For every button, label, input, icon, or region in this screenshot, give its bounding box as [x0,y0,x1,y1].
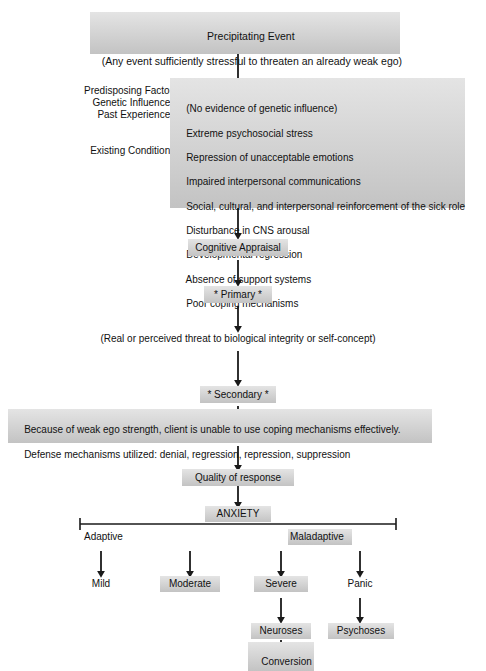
factor-item-0: (No evidence of genetic influence) [186,103,337,114]
ego-strength-line1: Because of weak ego strength, client is … [24,424,401,435]
factor-item-3: Impaired interpersonal communications [186,176,361,187]
node-anxiety: ANXIETY [205,506,271,522]
factor-item-5: Disturbance in CNS arousal [186,225,309,236]
ego-strength-line2: Defense mechanisms utilized: denial, reg… [24,449,350,460]
precipitating-event-detail: (Any event sufficiently stressful to thr… [102,55,402,67]
factor-item-4: Social, cultural, and interpersonal rein… [186,201,465,212]
node-ego-strength: Because of weak ego strength, client is … [8,409,432,443]
label-existing-conditions: Existing Conditions: [20,145,178,157]
factor-item-2: Repression of unacceptable emotions [186,152,353,163]
conversion-disorder-line1: Conversion [261,656,312,667]
node-neuroses: Neuroses [251,623,311,639]
label-maladaptive: Maladaptive [288,529,352,545]
factor-item-7: Absence of support systems [186,274,312,285]
node-primary-appraisal: * Primary * [204,286,272,303]
label-past-experiences: Past Experiences: [20,109,178,121]
precipitating-event-title: Precipitating Event [207,30,295,42]
node-panic: Panic [335,578,385,590]
label-adaptive: Adaptive [84,531,123,543]
flowchart-canvas: Precipitating Event (Any event sufficien… [0,0,486,671]
label-predisposing-factors: Predisposing Factors [20,85,178,97]
node-conversion-disorder: Conversion Disorder [248,642,314,671]
node-mild: Mild [76,578,126,590]
label-genetic-influences: Genetic Influences: [20,97,178,109]
node-secondary-appraisal: * Secondary * [200,386,276,403]
factor-item-1: Extreme psychosocial stress [186,128,313,139]
node-severe: Severe [254,576,308,592]
node-precipitating-event: Precipitating Event (Any event sufficien… [90,12,400,54]
node-cognitive-appraisal: Cognitive Appraisal [188,239,288,256]
node-threat-statement: (Real or perceived threat to biological … [63,333,413,345]
node-quality-of-response: Quality of response [182,469,294,486]
node-moderate: Moderate [160,576,220,592]
node-psychoses: Psychoses [328,623,394,639]
node-predisposing-factors-list: (No evidence of genetic influence) Extre… [170,78,465,208]
